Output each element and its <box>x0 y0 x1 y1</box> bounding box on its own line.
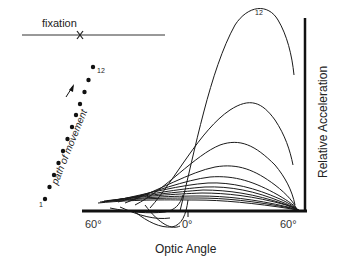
y-axis-label: Relative Acceleration <box>316 66 330 178</box>
curve-12-label: 12 <box>255 9 263 16</box>
movement-end-label: 12 <box>97 67 105 74</box>
curve-11 <box>150 103 293 208</box>
movement-arrow-icon <box>66 84 74 97</box>
x-tick-left-60: 60° <box>85 218 102 230</box>
x-tick-right-60: 60° <box>280 218 297 230</box>
fixation-label: fixation <box>42 17 77 29</box>
acceleration-curves <box>98 9 301 228</box>
x-axis-label: Optic Angle <box>155 242 216 256</box>
curve-12 <box>180 9 294 211</box>
x-tick-0: 0° <box>182 218 193 230</box>
movement-start-label: 1 <box>39 201 43 208</box>
